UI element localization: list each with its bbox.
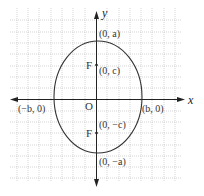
focus-top-label: F — [86, 59, 92, 71]
y-axis-label: y — [101, 6, 108, 20]
ellipse-diagram: y x O (0, a) (0, −a) (−b, 0) (b, 0) (0, … — [0, 0, 204, 196]
bottom-vertex-label: (0, −a) — [99, 156, 126, 168]
x-axis-label: x — [187, 93, 194, 107]
focus-bottom-point — [95, 132, 98, 135]
x-axis-left-arrow-icon — [10, 97, 18, 102]
focus-bottom-label: F — [86, 127, 92, 139]
top-vertex-label: (0, a) — [99, 28, 120, 40]
left-covertex-label: (−b, 0) — [18, 103, 45, 115]
focus-top-coord-label: (0, c) — [99, 65, 120, 77]
x-axis-right-arrow-icon — [177, 97, 185, 102]
focus-top-point — [95, 64, 98, 67]
focus-bottom-coord-label: (0, −c) — [99, 119, 126, 131]
ellipse-curve — [54, 41, 142, 153]
y-axis-up-arrow-icon — [94, 11, 99, 19]
y-axis-down-arrow-icon — [94, 179, 99, 187]
right-covertex-label: (b, 0) — [142, 103, 164, 115]
origin-label: O — [85, 100, 93, 112]
